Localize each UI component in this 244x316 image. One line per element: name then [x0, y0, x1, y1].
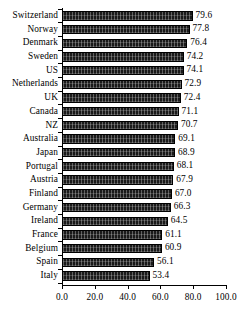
bar-track — [62, 203, 171, 212]
category-label: Portugal — [26, 161, 58, 172]
y-tick — [58, 91, 62, 92]
bar-row: Australia69.1 — [0, 133, 244, 147]
bar-value-label: 67.9 — [176, 174, 193, 185]
bar — [62, 217, 168, 226]
x-tick-label: 80.0 — [185, 292, 202, 303]
bar — [62, 148, 175, 157]
x-tick — [62, 285, 63, 289]
bar — [62, 39, 187, 48]
bar — [62, 25, 190, 34]
bar-row: Denmark76.4 — [0, 37, 244, 51]
bar-track — [62, 175, 173, 184]
bar-track — [62, 258, 154, 267]
bar — [62, 203, 171, 212]
x-tick — [160, 285, 161, 289]
bar — [62, 244, 162, 253]
bar-row: NZ70.7 — [0, 120, 244, 134]
bar-track — [62, 271, 150, 280]
category-label: Belgium — [25, 243, 58, 254]
bar-track — [62, 121, 178, 130]
y-tick — [58, 173, 62, 174]
bar-value-label: 66.3 — [174, 201, 191, 212]
y-tick — [58, 50, 62, 51]
bar-value-label: 76.4 — [190, 37, 207, 48]
bar-value-label: 61.1 — [165, 229, 182, 240]
y-tick — [58, 283, 62, 284]
x-tick-label: 20.0 — [86, 292, 103, 303]
bar-value-label: 68.1 — [177, 160, 194, 171]
y-tick — [58, 269, 62, 270]
y-tick — [58, 36, 62, 37]
bar-chart: Switzerland79.6Norway77.8Denmark76.4Swed… — [0, 0, 244, 316]
bar-track — [62, 52, 184, 61]
bar-value-label: 64.5 — [171, 215, 188, 226]
bar-row: Japan68.9 — [0, 147, 244, 161]
bar — [62, 66, 184, 75]
y-tick — [58, 228, 62, 229]
category-label: Sweden — [28, 51, 58, 62]
bar — [62, 93, 181, 102]
bar — [62, 189, 172, 198]
y-tick — [58, 187, 62, 188]
category-label: Finland — [29, 188, 58, 199]
bar-row: Austria67.9 — [0, 174, 244, 188]
y-tick — [58, 200, 62, 201]
bar-track — [62, 148, 175, 157]
category-label: UK — [44, 92, 58, 103]
y-tick — [58, 255, 62, 256]
bar-track — [62, 189, 172, 198]
y-tick — [58, 132, 62, 133]
y-tick — [58, 146, 62, 147]
bar-track — [62, 66, 184, 75]
bar-row: Spain56.1 — [0, 256, 244, 270]
x-axis-line — [62, 285, 227, 286]
bar — [62, 271, 150, 280]
bar — [62, 258, 154, 267]
y-tick — [58, 118, 62, 119]
bar-track — [62, 244, 162, 253]
x-tick — [193, 285, 194, 289]
bar — [62, 175, 173, 184]
x-tick — [95, 285, 96, 289]
bar-value-label: 68.9 — [178, 147, 195, 158]
bar — [62, 52, 184, 61]
bar-row: Sweden74.2 — [0, 51, 244, 65]
bar-row: Italy53.4 — [0, 270, 244, 284]
bar-value-label: 70.7 — [181, 119, 198, 130]
y-axis-line — [62, 8, 63, 285]
category-label: NZ — [45, 120, 58, 131]
category-label: France — [32, 229, 58, 240]
x-tick-label: 60.0 — [152, 292, 169, 303]
category-label: Denmark — [23, 37, 58, 48]
bar-track — [62, 217, 168, 226]
chart-plot-area: Switzerland79.6Norway77.8Denmark76.4Swed… — [0, 10, 244, 284]
y-tick — [58, 9, 62, 10]
category-label: Canada — [30, 106, 58, 117]
bar-row: US74.1 — [0, 65, 244, 79]
category-label: Ireland — [31, 215, 58, 226]
bar-track — [62, 93, 181, 102]
y-tick — [58, 63, 62, 64]
bar-value-label: 53.4 — [153, 270, 170, 281]
y-tick — [58, 241, 62, 242]
bar-track — [62, 39, 187, 48]
category-label: Australia — [23, 133, 58, 144]
category-label: US — [46, 65, 58, 76]
bar-value-label: 74.1 — [187, 64, 204, 75]
y-tick — [58, 22, 62, 23]
bar-track — [62, 162, 174, 171]
bar — [62, 134, 175, 143]
category-label: Japan — [36, 147, 58, 158]
y-tick — [58, 104, 62, 105]
bar — [62, 121, 178, 130]
bar-row: Belgium60.9 — [0, 243, 244, 257]
bar-value-label: 69.1 — [178, 133, 195, 144]
category-label: Austria — [30, 174, 58, 185]
bar — [62, 11, 193, 20]
bar-value-label: 56.1 — [157, 256, 174, 267]
bar — [62, 107, 179, 116]
bar-row: Norway77.8 — [0, 24, 244, 38]
category-label: Netherlands — [12, 78, 58, 89]
x-tick — [128, 285, 129, 289]
bar-value-label: 79.6 — [196, 10, 213, 21]
